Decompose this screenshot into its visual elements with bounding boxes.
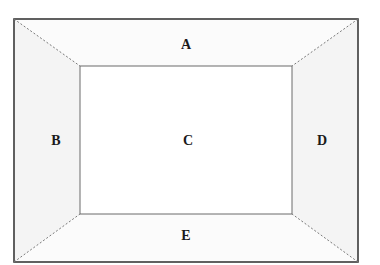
label-e: E bbox=[181, 228, 190, 244]
label-c: C bbox=[183, 133, 193, 149]
label-b: B bbox=[51, 133, 60, 149]
label-a: A bbox=[181, 37, 191, 53]
label-d: D bbox=[317, 133, 327, 149]
